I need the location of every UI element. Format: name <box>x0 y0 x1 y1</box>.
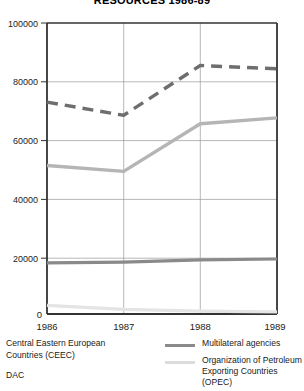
legend-item-multilateral-agencies: Multilateral agencies <box>165 338 304 349</box>
legend-item-opec-label: Organization of Petroleum Exporting Coun… <box>202 355 304 388</box>
y-tick-label-0: 0 <box>37 309 42 320</box>
y-tick-label-80000: 80000 <box>13 77 38 87</box>
gridlines-horizontal <box>47 82 277 258</box>
legend-swatch-multilateral-agencies <box>165 344 195 347</box>
gridlines-vertical <box>124 23 201 314</box>
legend-item-opec: Organization of Petroleum Exporting Coun… <box>165 355 304 388</box>
legend-item-dac-line1: DAC <box>6 370 151 382</box>
legend-item-ceec-line2: Countries (CEEC) <box>6 350 151 362</box>
x-tick-label-1989: 1989 <box>264 321 285 330</box>
y-tick-label-60000: 60000 <box>13 136 38 146</box>
legend-item-opec-line2: Exporting Countries (OPEC) <box>202 366 304 388</box>
legend-swatch-opec <box>165 361 195 364</box>
x-tick-label-1986: 1986 <box>36 321 57 330</box>
legend-item-ceec-line1: Central Eastern European <box>6 338 151 350</box>
x-tick-label-1987: 1987 <box>113 321 134 330</box>
series-line-multilateral-agencies <box>47 259 277 263</box>
chart-plot-area: 100000 80000 60000 40000 20000 0 1986 19… <box>0 0 304 330</box>
series-line-opec <box>47 305 277 312</box>
legend-column-left: Central Eastern European Countries (CEEC… <box>6 338 151 391</box>
legend-item-multilateral-line1: Multilateral agencies <box>202 338 280 349</box>
legend-item-dac: DAC <box>6 370 151 382</box>
chart-legend: Central Eastern European Countries (CEEC… <box>0 338 304 385</box>
x-tick-label-1988: 1988 <box>190 321 211 330</box>
series-line-ceec <box>47 66 277 116</box>
series-line-dac <box>47 118 277 171</box>
legend-item-ceec: Central Eastern European Countries (CEEC… <box>6 338 151 361</box>
legend-column-right: Multilateral agencies Organization of Pe… <box>165 338 304 391</box>
legend-item-multilateral-agencies-label: Multilateral agencies <box>202 338 280 349</box>
y-tick-label-100000: 100000 <box>8 19 38 29</box>
y-tick-label-20000: 20000 <box>13 254 38 264</box>
y-tick-label-40000: 40000 <box>13 195 38 205</box>
line-chart-svg: 100000 80000 60000 40000 20000 0 1986 19… <box>0 0 304 330</box>
legend-item-opec-line1: Organization of Petroleum <box>202 355 304 366</box>
